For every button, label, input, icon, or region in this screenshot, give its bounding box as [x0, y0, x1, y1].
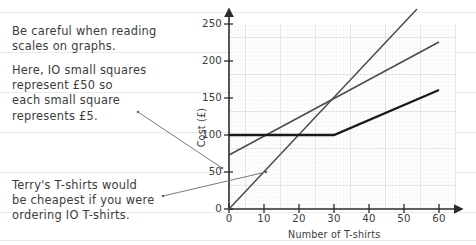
x-tick-label: 60: [428, 213, 450, 224]
chart-grid: [229, 13, 456, 209]
x-tick-label: 10: [253, 213, 275, 224]
series-steep-line: [229, 9, 417, 209]
y-axis-title: Cost (£): [196, 98, 207, 158]
cost-vs-quantity-line-chart: 250 200 150 100 50 0 0 10 20 30 40 50 60…: [0, 0, 476, 245]
x-tick-label: 0: [218, 213, 240, 224]
worksheet-page: Be careful when reading scales on graphs…: [0, 0, 476, 245]
x-tick-label: 50: [393, 213, 415, 224]
y-axis-title-wrapper: Cost (£): [188, 60, 248, 80]
x-tick-label: 30: [323, 213, 345, 224]
x-axis-title: Number of T-shirts: [288, 229, 380, 240]
x-axis: [229, 204, 462, 213]
x-tick-label: 40: [358, 213, 380, 224]
chart-svg: [0, 0, 476, 245]
y-tick-label: 250: [192, 18, 222, 29]
y-axis: [224, 9, 233, 209]
series-terrys-t-shirts-line: [229, 90, 439, 135]
x-tick-label: 20: [288, 213, 310, 224]
y-tick-label: 50: [192, 166, 222, 177]
series-medium-line: [229, 42, 439, 155]
